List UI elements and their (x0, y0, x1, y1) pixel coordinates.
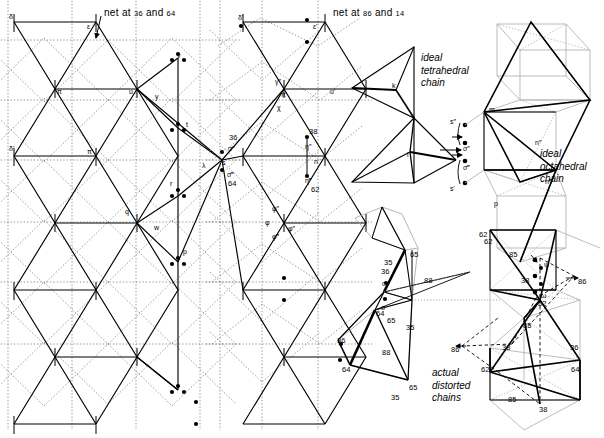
caption-actual-distorted-chains: actual distorted chains (432, 367, 470, 405)
label-num-36: 36 (229, 134, 237, 142)
net-left-caption-arrow (96, 16, 101, 38)
net-right-prefix: net at (333, 7, 363, 18)
distorted-tetra-faint (338, 207, 418, 380)
label-r-38-b: 38 (502, 344, 510, 352)
octa-bridge-dots (463, 123, 468, 186)
label-r-85-c: 85 (508, 396, 516, 404)
octa-bridge-braces (458, 123, 460, 184)
label-k: k (392, 82, 396, 89)
label-pi: π (57, 88, 62, 95)
label-d-sig-a: σ (382, 280, 386, 287)
label-sigma-2: σ″ (228, 145, 235, 152)
label-y: y (155, 93, 159, 100)
label-s: s (222, 159, 226, 166)
caption-ideal-tetrahedral-chain: ideal tetrahedral chain (421, 52, 469, 90)
label-d-88-b: 88 (382, 349, 390, 357)
label-n-2: n″ (535, 139, 541, 146)
label-p: p (183, 248, 187, 255)
label-d-35-c: 35 (391, 394, 399, 402)
label-pi-pp: π' (281, 91, 287, 98)
label-v: v (177, 52, 181, 59)
label-phi-pp: φ″ (288, 225, 295, 232)
net-right-value-b: 14 (396, 9, 405, 18)
label-r-36-b: 36 (570, 344, 578, 352)
label-delta: δ (9, 13, 13, 20)
label-r-62-b: 62 (538, 300, 546, 308)
label-q: q (125, 208, 129, 215)
net-left-value-b: 64 (167, 9, 176, 18)
label-chi: χ (277, 104, 281, 111)
label-d-65-c: 65 (409, 384, 417, 392)
label-phi: φ (265, 219, 270, 226)
label-d-64-b: 64 (342, 366, 350, 374)
caption-net-left: net at 36 and 64 (104, 8, 176, 19)
label-w: w (154, 224, 159, 231)
net-left-mid: and (143, 7, 167, 18)
label-d-65-a: 65 (410, 251, 418, 259)
label-eta-3: η‴ (305, 177, 311, 184)
label-eta-2: η″ (305, 143, 311, 150)
label-num-62-oct: 62 (484, 238, 492, 246)
label-r-38-a: 38 (521, 277, 529, 285)
label-u-p: u' (330, 88, 335, 95)
label-d-64-a: 64 (376, 310, 384, 318)
net-right-value-a: 86 (363, 9, 372, 18)
label-r-psi: ψ (544, 261, 549, 268)
label-r-85-b: 85 (523, 322, 531, 330)
diagram-canvas (0, 0, 604, 438)
label-m: m (489, 106, 495, 113)
label-r-62-a: 62 (479, 231, 487, 239)
label-d-35-a: 35 (384, 259, 392, 267)
left-net-solid (14, 22, 222, 424)
label-gamma-2: γ″ (275, 78, 281, 85)
distorted-octa-psi-omega-dots (533, 258, 543, 295)
label-epsilon: ε (87, 23, 90, 30)
label-pi-p: π' (87, 148, 93, 155)
label-n: n (314, 158, 318, 165)
label-d-88-a: 88 (424, 277, 432, 285)
label-r: r (170, 180, 172, 187)
label-sigma-3: σ‴ (227, 171, 234, 178)
distorted-tetra-dotted (384, 272, 500, 300)
label-l: l (407, 151, 409, 158)
label-num-64: 64 (228, 180, 236, 188)
label-d-65-b: 65 (387, 317, 395, 325)
label-r-86-a: 86 (578, 278, 586, 286)
label-s-p: s' (450, 185, 455, 192)
label-r-64-b: 64 (571, 366, 579, 374)
left-net-vertex-ticks (14, 14, 137, 434)
label-epsilon-p: ε' (313, 23, 317, 30)
label-p-oct: p (494, 200, 498, 207)
distorted-tetra-bold (338, 207, 470, 380)
left-net-dotted-lattice (0, 0, 240, 430)
label-num-62: 62 (311, 186, 319, 194)
label-s-2: s″ (450, 118, 456, 125)
label-phi-2: φ″ (272, 205, 279, 212)
label-sigma-3b: σ‴ (463, 164, 470, 171)
label-phi-3: φ‴ (272, 233, 279, 240)
net-left-value-a: 36 (134, 9, 143, 18)
label-r-86-b: 86 (451, 346, 459, 354)
label-n-3: n‴ (545, 178, 551, 185)
label-delta-p: δ' (9, 145, 14, 152)
label-delta-pp: δ' (238, 14, 243, 21)
distorted-octa-bold (490, 230, 580, 404)
label-t: t (186, 121, 188, 128)
net-right-mid: and (372, 7, 396, 18)
label-d-35-b: 35 (406, 324, 414, 332)
label-r-38-c: 38 (539, 406, 547, 414)
caption-net-right: net at 86 and 14 (333, 8, 405, 19)
label-sigma-2b: σ″ (463, 145, 470, 152)
label-d-36-b: 36 (337, 337, 345, 345)
crystal-structure-figure: net at 36 and 64 net at 86 and 14 ideal … (0, 0, 604, 438)
label-num-38: 38 (309, 128, 317, 136)
right-net-solid (222, 22, 366, 424)
label-r-85-a: 85 (509, 251, 517, 259)
label-u: u (129, 88, 133, 95)
net-left-prefix: net at (104, 7, 134, 18)
label-lambda: λ (202, 162, 206, 169)
label-d-36-a: 36 (381, 268, 389, 276)
label-r-62-c: 62 (481, 366, 489, 374)
